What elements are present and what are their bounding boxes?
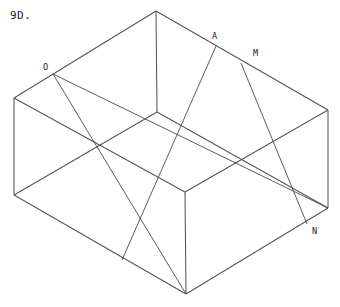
segment-O-to-inner-bottom (53, 74, 186, 294)
segment-inner-right-edge (157, 112, 328, 208)
box-edge-group (14, 11, 328, 294)
vertex-label-o: O (43, 63, 48, 72)
diagonal-group (53, 46, 328, 294)
segment-A-to-bottom-floor (122, 46, 216, 260)
segment-inner-floor-left (14, 98, 185, 192)
segment-top-right-ridge (156, 11, 328, 110)
segment-center-vertical (156, 11, 157, 112)
segment-M-to-N (241, 63, 307, 224)
segment-bottom-left-ridge (14, 195, 186, 294)
segment-O-to-right-lower (53, 74, 328, 208)
segment-inner-left-edge (14, 112, 157, 195)
segment-top-left-ridge (14, 11, 156, 98)
vertex-label-n: N (312, 227, 317, 236)
segment-inner-floor-right (185, 110, 328, 192)
vertex-label-m: M (253, 49, 258, 58)
segment-bottom-vertical (185, 192, 186, 294)
figure-canvas: 9D. O A M N (0, 0, 340, 307)
vertex-label-a: A (212, 32, 217, 41)
geometry-diagram (0, 0, 340, 307)
segment-bottom-right-ridge (186, 208, 328, 294)
